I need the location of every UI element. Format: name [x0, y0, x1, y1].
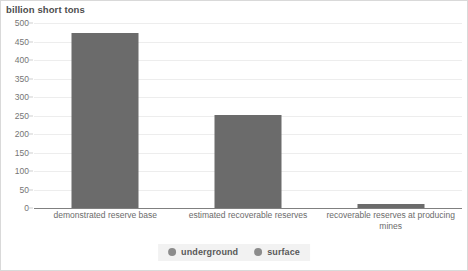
y-tick-label: 350 — [15, 74, 29, 84]
bar-slot — [319, 23, 462, 208]
legend-item-surface[interactable]: surface — [254, 247, 300, 257]
x-axis-label: recoverable reserves at producingmines — [319, 210, 462, 231]
legend-label-underground: underground — [181, 247, 238, 257]
y-tick-label: 200 — [15, 129, 29, 139]
chart-title: billion short tons — [6, 4, 85, 15]
bar-slot — [177, 23, 320, 208]
bar-chart: billion short tons 050100150200250300350… — [0, 0, 468, 271]
bar[interactable] — [214, 115, 281, 208]
y-tick-label: 0 — [24, 203, 29, 213]
bar[interactable] — [72, 33, 139, 208]
y-tick-mark — [29, 189, 33, 190]
legend-item-underground[interactable]: underground — [168, 247, 238, 257]
y-tick-label: 300 — [15, 92, 29, 102]
x-axis-label: estimated recoverable reserves — [177, 210, 320, 221]
legend-label-surface: surface — [267, 247, 300, 257]
y-tick-mark — [29, 97, 33, 98]
y-tick-mark — [29, 134, 33, 135]
bars-group — [34, 23, 462, 208]
y-tick-mark — [29, 208, 33, 209]
chart-legend: underground surface — [158, 244, 310, 261]
x-axis-label: demonstrated reserve base — [34, 210, 177, 221]
plot-area: 050100150200250300350400450500 — [34, 23, 462, 208]
y-tick-label: 50 — [20, 185, 29, 195]
x-axis-labels: demonstrated reserve baseestimated recov… — [34, 210, 462, 238]
y-tick-label: 500 — [15, 18, 29, 28]
y-tick-label: 400 — [15, 55, 29, 65]
y-tick-label: 150 — [15, 148, 29, 158]
circle-icon — [254, 248, 262, 256]
circle-icon — [168, 248, 176, 256]
y-tick-mark — [29, 23, 33, 24]
y-tick-mark — [29, 171, 33, 172]
y-tick-label: 450 — [15, 37, 29, 47]
y-tick-label: 250 — [15, 111, 29, 121]
y-tick-mark — [29, 152, 33, 153]
y-tick-mark — [29, 115, 33, 116]
y-tick-mark — [29, 78, 33, 79]
y-tick-mark — [29, 60, 33, 61]
y-tick-label: 100 — [15, 166, 29, 176]
y-tick-mark — [29, 41, 33, 42]
axis-baseline — [34, 208, 462, 209]
bar-slot — [34, 23, 177, 208]
bar[interactable] — [357, 204, 424, 208]
